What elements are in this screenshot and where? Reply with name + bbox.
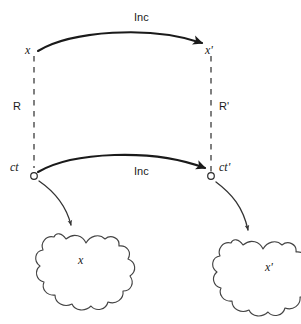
edge-label-relation-left: R — [13, 101, 21, 112]
inc-bottom-arrow — [38, 155, 205, 172]
node-dot-ct-left — [31, 173, 38, 180]
node-label-ct-prime-lower-right: ct' — [219, 161, 230, 173]
region-blob-right — [213, 240, 301, 316]
edge-label-relation-right: R' — [219, 101, 229, 112]
blob-label-left-x: x — [78, 254, 83, 266]
edge-label-inc-bottom: Inc — [134, 166, 149, 177]
edge-label-inc-top: Inc — [134, 12, 149, 23]
node-label-x-prime-upper-right: x' — [205, 44, 213, 56]
node-label-ct-lower-left: ct — [10, 161, 19, 173]
blob-label-right-x-prime: x' — [265, 261, 273, 273]
projection-arrow-right — [216, 182, 248, 230]
diagram-vector-layer — [0, 0, 301, 324]
projection-arrow-left — [39, 181, 71, 225]
inc-top-arrow — [38, 32, 202, 51]
region-blob-left — [36, 234, 135, 310]
node-label-x-upper-left: x — [25, 44, 30, 56]
diagram-canvas: Inc Inc x x' R R' ct ct' x x' — [0, 0, 301, 324]
node-dot-ct-right — [208, 173, 215, 180]
